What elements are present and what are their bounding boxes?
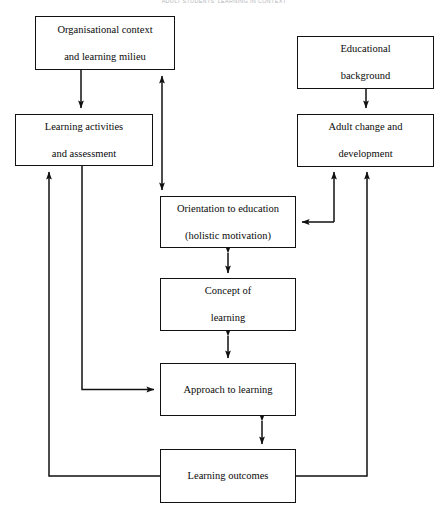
connector-activities-to-approach	[82, 166, 154, 390]
node-label-line1: Educational	[302, 42, 429, 56]
node-label-line2: background	[302, 69, 429, 83]
node-educational-background: Educational background	[297, 36, 434, 89]
node-label-line1: Organisational context	[40, 23, 170, 37]
node-learning-activities: Learning activities and assessment	[15, 114, 153, 166]
connector-outcomes-to-activities	[49, 172, 160, 476]
node-label-line2: and assessment	[20, 147, 148, 161]
node-label-line1: Adult change and	[302, 120, 429, 134]
connector-outcomes-to-adult-change	[296, 172, 367, 476]
diagram-canvas: ADULT STUDENTS' LEARNING IN CONTEXT	[0, 0, 448, 521]
node-concept-of-learning: Concept of learning	[160, 278, 296, 331]
node-label-line2: and learning milieu	[40, 50, 170, 64]
node-label-line1: Approach to learning	[165, 383, 291, 397]
node-label-line2: (holistic motivation)	[165, 229, 291, 243]
node-approach-to-learning: Approach to learning	[160, 363, 296, 416]
node-orientation-to-education: Orientation to education (holistic motiv…	[160, 196, 296, 248]
node-organisational-context: Organisational context and learning mili…	[35, 16, 175, 70]
node-learning-outcomes: Learning outcomes	[160, 449, 296, 503]
node-label-line1: Learning outcomes	[165, 469, 291, 483]
node-label-line1: Concept of	[165, 284, 291, 298]
node-label-line1: Orientation to education	[165, 202, 291, 216]
node-adult-change: Adult change and development	[297, 114, 434, 167]
node-label-line2: development	[302, 147, 429, 161]
node-label-line1: Learning activities	[20, 120, 148, 134]
node-label-line2: learning	[165, 311, 291, 325]
